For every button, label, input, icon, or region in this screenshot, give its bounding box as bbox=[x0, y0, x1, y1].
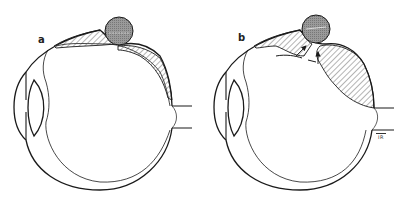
panel-label-b: b bbox=[238, 32, 245, 43]
panel-a: a bbox=[0, 0, 200, 201]
eye-diagram-a bbox=[0, 0, 200, 201]
ir-annotation: IR bbox=[376, 133, 386, 140]
eye-diagram-b bbox=[200, 0, 401, 201]
panel-label-a: a bbox=[38, 34, 45, 45]
panel-b: b IR bbox=[200, 0, 400, 201]
